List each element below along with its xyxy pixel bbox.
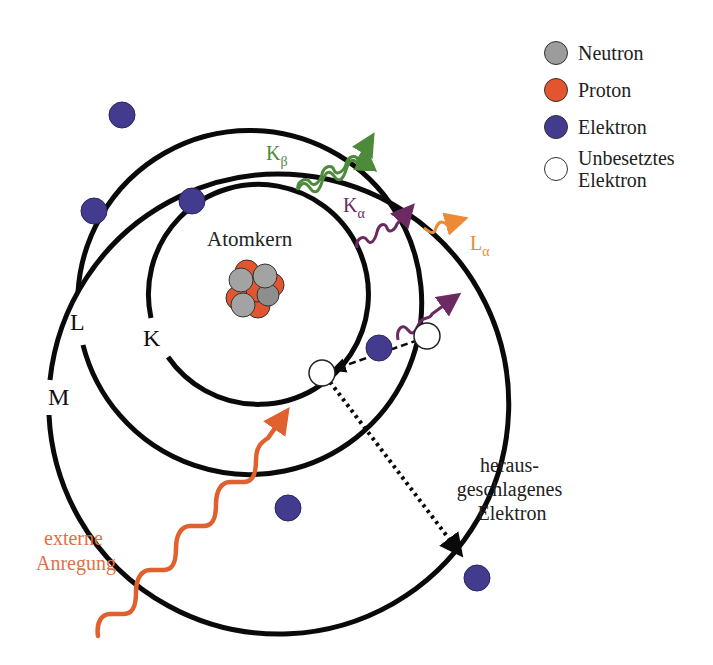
legend-item-vacancy: Unbesetztes Elektron [544,145,675,193]
ejected-electron-icon [464,565,490,591]
shells [49,131,509,635]
neutron-icon [544,41,568,65]
electron-icon [81,198,107,224]
shell-l-label: L [70,309,85,335]
shell-k-label: K [143,325,161,351]
shell-m-label: M [48,384,69,410]
electron-icon [179,188,205,214]
ejection-arrow [330,382,456,548]
k-beta-label: Kβ [266,142,288,169]
neutron-icon [229,268,253,292]
nucleus-label: Atomkern [207,227,293,251]
legend-item-neutron: Neutron [544,34,675,71]
l-alpha-photon [424,220,460,233]
proton-icon [544,78,568,102]
legend-label: Neutron [578,42,644,64]
electron-icon [275,495,301,521]
legend-label: Proton [578,79,631,101]
l-alpha-label: Lα [470,232,490,259]
k-alpha-label: Kα [343,194,365,221]
legend-item-electron: Elektron [544,108,675,145]
legend-item-proton: Proton [544,71,675,108]
electron-icon [366,335,392,361]
nucleus [226,260,284,318]
legend-label: Unbesetztes Elektron [578,147,675,191]
legend: Neutron Proton Elektron Unbesetztes Elek… [544,34,675,193]
neutron-icon [253,264,277,288]
neutron-icon [231,293,255,317]
electron-icon [544,115,568,139]
excitation-photon [98,418,282,636]
vacancy-icon [544,157,568,181]
electron-icon [109,102,135,128]
vacancy-l-icon [414,323,440,349]
vacancy-k-icon [309,360,335,386]
ejected-electron-label: heraus- geschlagenes Elektron [457,454,568,524]
legend-label: Elektron [578,116,647,138]
